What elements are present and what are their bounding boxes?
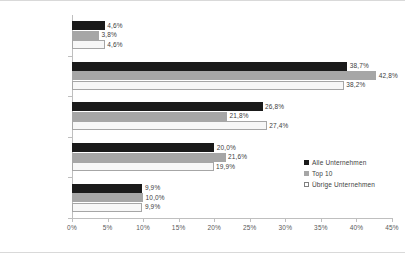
bar-row: 38,2% [72,81,392,90]
x-tick-label: 30% [270,224,300,231]
legend-label: Top 10 [312,170,332,177]
bar-value-label: 38,2% [346,81,365,88]
legend-swatch-icon [304,160,309,165]
x-tick-mark [392,218,393,222]
bar-value-label: 20,0% [217,144,236,151]
x-tick-mark [72,218,73,222]
bar-value-label: 42,8% [379,72,398,79]
bar [72,193,143,202]
bar-value-label: 9,9% [145,203,160,210]
legend-swatch-icon [304,182,309,187]
x-tick-label: 35% [306,224,336,231]
x-tick-label: 25% [235,224,265,231]
bar [72,153,226,162]
bar-row: 21,8% [72,112,392,121]
x-tick-mark [108,218,109,222]
bar-value-label: 38,7% [350,62,369,69]
legend-item[interactable]: Übrige Unternehmen [304,179,375,190]
bar-row: 26,8% [72,102,392,111]
bar-value-label: 21,8% [230,112,249,119]
bar-row: 27,4% [72,121,392,130]
x-tick-label: 40% [341,224,371,231]
bar-value-label: 26,8% [265,103,284,110]
bar [72,112,227,121]
bar [72,81,344,90]
category-group: 30 bis 39 Jahre26,8%21,8%27,4% [72,96,392,137]
bar-value-label: 19,9% [216,163,235,170]
bar-chart: 0%5%10%15%20%25%30%35%40%45% unter 20 Ja… [0,0,405,253]
legend-swatch-icon [304,171,309,176]
bar-value-label: 3,8% [102,31,117,38]
x-tick-label: 45% [377,224,405,231]
x-tick-mark [179,218,180,222]
x-tick-mark [285,218,286,222]
bar-value-label: 27,4% [269,122,288,129]
legend-item[interactable]: Alle Unternehmen [304,157,375,168]
bar-value-label: 21,6% [228,153,247,160]
bar-row: 3,8% [72,31,392,40]
legend-label: Übrige Unternehmen [312,181,375,188]
bar [72,62,347,71]
bar [72,121,267,130]
x-tick-label: 15% [164,224,194,231]
bar-row: 38,7% [72,62,392,71]
bar-row: 4,6% [72,40,392,49]
bar-value-label: 9,9% [145,184,160,191]
bar-row: 10,0% [72,193,392,202]
bar-row: 42,8% [72,71,392,80]
x-tick-mark [250,218,251,222]
x-axis-line [72,218,393,219]
x-tick-label: 0% [57,224,87,231]
bar [72,203,142,212]
bar-value-label: 4,6% [107,22,122,29]
bar [72,71,376,80]
bar-value-label: 4,6% [107,41,122,48]
bar-value-label: 10,0% [146,194,165,201]
bar [72,184,142,193]
bar-row: 4,6% [72,21,392,30]
chart-legend: Alle UnternehmenTop 10Übrige Unternehmen [304,157,375,190]
legend-item[interactable]: Top 10 [304,168,375,179]
category-group: 20 bis 29 Jahre38,7%42,8%38,2% [72,56,392,97]
y-tick-mark [68,218,72,219]
x-tick-label: 10% [128,224,158,231]
bar [72,31,99,40]
bar [72,21,105,30]
x-tick-mark [356,218,357,222]
bar-row: 20,0% [72,143,392,152]
x-tick-mark [143,218,144,222]
x-tick-label: 5% [93,224,123,231]
legend-label: Alle Unternehmen [312,159,366,166]
category-group: unter 20 Jahre4,6%3,8%4,6% [72,15,392,56]
bar [72,40,105,49]
x-tick-label: 20% [199,224,229,231]
bar [72,143,214,152]
x-tick-mark [321,218,322,222]
x-tick-mark [214,218,215,222]
bar [72,162,214,171]
bar-row: 9,9% [72,203,392,212]
bar [72,102,263,111]
